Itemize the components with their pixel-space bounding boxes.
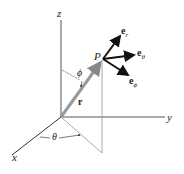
er-label: er [121,26,128,39]
theta-dimension [40,137,50,138]
theta-label: θ [52,132,57,142]
unit-vector-er [103,36,120,59]
unit-vector-etheta [103,55,134,59]
x-axis-label: x [12,152,17,163]
point-label: P [94,51,101,62]
diagram-canvas [0,0,184,174]
y-axis-label: y [167,112,172,123]
phi-label: ϕ [77,68,82,78]
theta-dimension-end [59,135,80,138]
etheta-label: eθ [137,48,145,61]
projection-radial [61,117,102,153]
unit-vector-ephi [103,59,128,75]
ephi-label: eϕ [129,76,137,89]
z-axis-label: z [57,8,61,19]
vector-r-label: r [78,97,82,107]
